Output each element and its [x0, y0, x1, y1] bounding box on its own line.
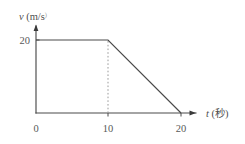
chart-canvas: 20 0 10 20 v(m/s) t(秒) [0, 0, 245, 144]
x-tick-label-20: 20 [176, 123, 187, 134]
y-axis-unit-superscript: ) [45, 11, 47, 19]
x-axis-title: t(秒) [206, 107, 229, 120]
svg-text:v(m/s): v(m/s) [19, 11, 47, 24]
velocity-series-line [36, 40, 181, 113]
y-axis-title: v(m/s) [19, 11, 47, 24]
x-tick-label-10: 10 [103, 123, 114, 134]
y-axis-unit: (m/s [26, 11, 45, 23]
x-axis-arrow-icon [190, 111, 197, 116]
x-axis-variable: t [206, 108, 210, 119]
x-tick-label-0: 0 [33, 123, 38, 134]
y-axis-variable: v [19, 11, 24, 22]
x-axis-unit: (秒) [211, 107, 228, 120]
velocity-time-figure: 20 0 10 20 v(m/s) t(秒) [0, 0, 245, 144]
y-axis-arrow-icon [34, 25, 39, 32]
y-tick-label-20: 20 [20, 35, 31, 46]
svg-text:t(秒): t(秒) [206, 107, 229, 120]
axes-group [34, 25, 196, 116]
